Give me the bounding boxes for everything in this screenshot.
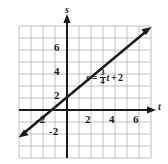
graph-figure: -2 2 4 6 6 4 2 -2 s t s = 3 4 t + 2: [0, 0, 168, 164]
fraction-numerator: 3: [100, 69, 106, 77]
x-axis-arrowhead: [147, 106, 156, 113]
y-axis-label-s: s: [65, 5, 69, 15]
y-tick-label-6: 6: [54, 42, 60, 53]
x-tick-label-4: 4: [109, 114, 115, 125]
equation-plus: +: [111, 73, 117, 83]
equation-lhs: s: [86, 73, 90, 83]
equation-constant: 2: [118, 73, 123, 83]
fraction-denominator: 4: [100, 77, 106, 86]
coordinate-plane: [0, 0, 168, 164]
y-axis-arrowhead: [63, 14, 70, 23]
equation-annotation: s = 3 4 t + 2: [86, 69, 123, 87]
x-axis-label-t: t: [158, 102, 161, 112]
grid-lines: [19, 26, 151, 158]
axes: [19, 20, 150, 158]
equation-equals: =: [91, 73, 97, 83]
y-tick-label-2: 2: [54, 90, 60, 101]
y-tick-label-neg2: -2: [49, 126, 58, 137]
y-tick-label-4: 4: [54, 66, 60, 77]
x-tick-label-6: 6: [133, 114, 139, 125]
equation-fraction: 3 4: [100, 69, 106, 87]
equation-variable: t: [107, 73, 110, 83]
x-tick-label-2: 2: [85, 114, 91, 125]
x-tick-label-neg2: -2: [36, 114, 45, 125]
